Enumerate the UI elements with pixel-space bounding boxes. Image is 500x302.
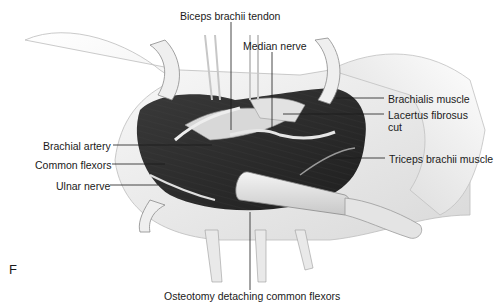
label-lacertus-fibrosus: Lacertus fibrosus: [388, 109, 468, 121]
label-median-nerve: Median nerve: [243, 40, 307, 52]
anatomical-illustration: Biceps brachii tendon Median nerve Brach…: [0, 0, 500, 302]
label-common-flexors: Common flexors: [35, 159, 111, 171]
label-triceps-brachii-muscle: Triceps brachii muscle: [389, 153, 493, 165]
label-biceps-brachii-tendon: Biceps brachii tendon: [180, 10, 280, 22]
label-osteotomy: Osteotomy detaching common flexors: [164, 290, 340, 302]
label-brachialis-muscle: Brachialis muscle: [388, 93, 470, 105]
label-lacertus-cut: cut: [388, 121, 402, 133]
label-brachial-artery: Brachial artery: [43, 140, 111, 152]
label-ulnar-nerve: Ulnar nerve: [56, 180, 110, 192]
panel-letter: F: [9, 262, 17, 277]
